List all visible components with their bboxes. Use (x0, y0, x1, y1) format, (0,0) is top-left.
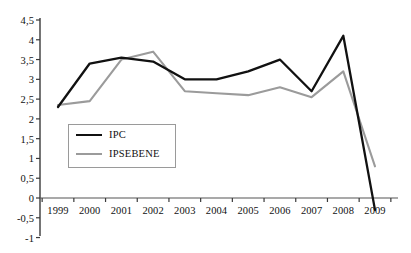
legend-swatch-icon (76, 134, 102, 136)
line-chart: 4,543,532,521,510,50-0,5-1 1999200020012… (0, 0, 411, 253)
x-tick-label: 2004 (206, 205, 227, 216)
x-tick-label: 2003 (174, 205, 195, 216)
y-tick-label: 3 (4, 74, 34, 85)
x-tick-label: 2002 (142, 205, 163, 216)
y-tick-label: 2 (4, 113, 34, 124)
y-tick-label: 0 (4, 193, 34, 204)
legend-label: IPSEBENE (109, 148, 160, 159)
x-tick-label: 2001 (111, 205, 132, 216)
x-tick-label: 2007 (301, 205, 322, 216)
y-tick-label: 2,5 (4, 94, 34, 105)
legend-item-ipc: IPC (69, 125, 175, 144)
series-line-ipc (58, 36, 375, 210)
y-tick-label: -1 (4, 232, 34, 243)
legend-swatch-icon (76, 153, 102, 155)
x-tick-label: 2005 (237, 205, 258, 216)
y-tick-label: 1 (4, 153, 34, 164)
series-lines (58, 36, 375, 210)
y-tick-label: 0,5 (4, 173, 34, 184)
x-tick-label: 2009 (364, 205, 385, 216)
x-tick-label: 2006 (269, 205, 290, 216)
x-tick-marks (42, 198, 391, 202)
chart-legend: IPC IPSEBENE (68, 124, 176, 168)
x-tick-label: 1999 (47, 205, 68, 216)
y-tick-label: 1,5 (4, 133, 34, 144)
legend-label: IPC (109, 129, 126, 140)
x-tick-label: 2000 (79, 205, 100, 216)
y-tick-label: 3,5 (4, 54, 34, 65)
y-tick-label: -0,5 (4, 212, 34, 223)
y-tick-label: 4 (4, 34, 34, 45)
x-tick-label: 2008 (333, 205, 354, 216)
legend-item-ipsebene: IPSEBENE (69, 144, 175, 163)
y-tick-label: 4,5 (4, 15, 34, 26)
